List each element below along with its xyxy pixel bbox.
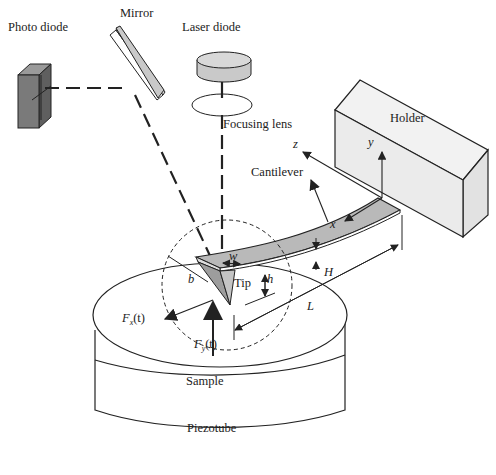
afm-diagram: Photo diode Mirror Laser diode Focusing … [0,0,496,475]
tip-label: Tip [234,276,251,290]
mirror-label: Mirror [120,6,154,20]
photo-diode-label: Photo diode [8,20,69,34]
svg-text:Fy(t): Fy(t) [193,337,217,353]
h-label: h [267,272,273,286]
fy-label: Fy(t) [193,337,217,353]
H-label: H [323,265,334,279]
fx-label: Fx(t) [121,311,145,327]
photo-diode-icon [18,64,51,128]
sample-label: Sample [186,374,224,388]
z-axis-label: z [292,137,298,151]
piezotube-label: Piezotube [187,421,237,435]
b-label: b [188,272,194,286]
y-axis-label: y [366,135,374,149]
svg-text:Fx(t): Fx(t) [121,311,145,327]
w-label: w [229,249,238,263]
laser-diode-icon [197,52,251,82]
x-axis-label: x [329,217,336,231]
cantilever-label: Cantilever [251,165,304,179]
laser-beam [45,82,222,265]
focusing-lens-label: Focusing lens [223,117,292,131]
L-label: L [306,299,314,313]
laser-diode-label: Laser diode [182,20,241,34]
holder-label: Holder [390,111,426,125]
